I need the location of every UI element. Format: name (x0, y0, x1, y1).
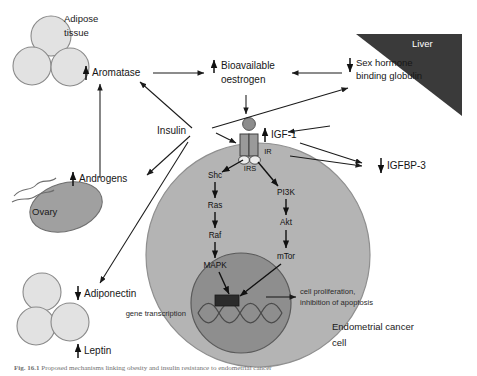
shbg-label-line1: Sex hormone (356, 57, 413, 68)
pathway-node-shc: Shc (208, 171, 222, 180)
adiponectin-label: Adiponectin (84, 288, 136, 299)
irs-node-left (239, 156, 250, 164)
adipocyte-bottom-right (51, 303, 89, 341)
adipocyte-left (13, 47, 51, 85)
pathway-node-mapk: MAPK (203, 261, 227, 270)
arrow-insulin-to-shbg (212, 88, 348, 128)
insulin-label: Insulin (157, 125, 186, 136)
receptor-subunit-right (249, 134, 258, 156)
figure-root: Adipose tissue Aromatase Bioavailable oe… (0, 0, 477, 376)
node-adiponectin: Adiponectin (78, 286, 136, 300)
signalling-diagram: Adipose tissue Aromatase Bioavailable oe… (0, 0, 477, 376)
outcome-label-line2: inhibition of apoptosis (300, 298, 373, 307)
arrow-insulin-to-receptor (216, 133, 236, 143)
gene-transcription-box (215, 295, 239, 306)
figure-caption-body: Proposed mechanisms linking obesity and … (41, 364, 271, 372)
liver-label: Liver (412, 38, 433, 49)
irs-label: IRS (244, 164, 256, 173)
adipose-tissue-label-line2: tissue (64, 27, 89, 38)
gene-transcription-label: gene transcription (126, 309, 186, 318)
ovary (12, 174, 108, 241)
node-leptin: Leptin (78, 344, 111, 358)
aromatase-label: Aromatase (92, 67, 141, 78)
igf1-label: IGF-1 (271, 129, 297, 140)
leptin-label: Leptin (84, 345, 111, 356)
adipocyte-right (51, 48, 89, 86)
adipocyte-bottom-left (17, 307, 55, 345)
androgens-label: Androgens (79, 173, 127, 184)
node-aromatase: Aromatase (86, 66, 141, 80)
outcome-label-line1: cell proliferation, (300, 287, 355, 296)
adipocyte-bottom-top (23, 273, 61, 311)
shbg-label-line2: binding globulin (356, 70, 422, 81)
adipocyte-cluster-bottom (17, 273, 89, 345)
arrow-insulin-to-aromatase (140, 82, 192, 128)
cancer-cell-label-line2: cell (332, 337, 346, 348)
pathway-node-ras: Ras (208, 201, 223, 210)
receptor-subunit-left (240, 134, 249, 156)
ovary-label: Ovary (32, 206, 58, 217)
figure-caption-prefix: Fig. 16.1 (14, 364, 39, 372)
pathway-node-akt: Akt (280, 218, 293, 227)
oestrogen-label-line1: Bioavailable (221, 60, 275, 71)
adipose-tissue-label-line1: Adipose (64, 13, 98, 24)
pathway-node-raf: Raf (209, 231, 222, 240)
node-igfbp3: IGFBP-3 (381, 158, 426, 173)
cancer-cell-label-line1: Endometrial cancer (332, 321, 414, 332)
igfbp3-label: IGFBP-3 (387, 160, 426, 171)
pathway-node-pi3k: PI3K (277, 188, 295, 197)
ir-label: IR (264, 147, 271, 156)
node-bioavailable-oestrogen: Bioavailable oestrogen (214, 60, 275, 85)
ligand-icon (243, 118, 256, 131)
pathway-node-mtor: mTor (277, 252, 295, 261)
arrow-insulin-to-androgens (147, 136, 190, 175)
node-igf1: IGF-1 (265, 128, 297, 142)
figure-caption: Fig. 16.1 Proposed mechanisms linking ob… (14, 364, 454, 373)
oestrogen-label-line2: oestrogen (221, 74, 265, 85)
